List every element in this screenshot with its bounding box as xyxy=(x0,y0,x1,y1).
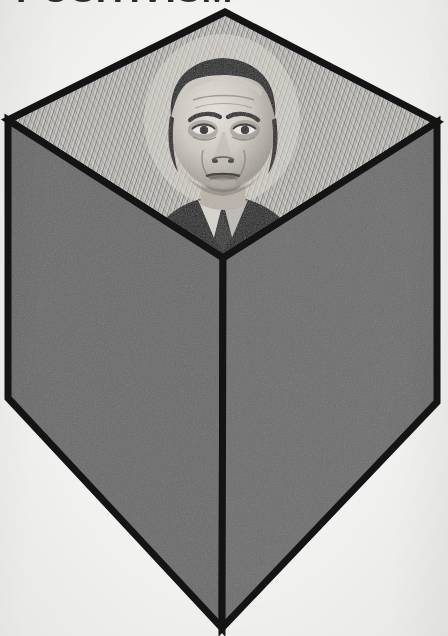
cube-svg xyxy=(0,0,448,636)
page-title: POSITIVISM xyxy=(16,0,233,7)
cube-illustration xyxy=(0,0,448,636)
page-title-strip: POSITIVISM xyxy=(0,0,448,7)
page-canvas: POSITIVISM xyxy=(0,0,448,636)
cube-center-edge xyxy=(222,258,223,628)
